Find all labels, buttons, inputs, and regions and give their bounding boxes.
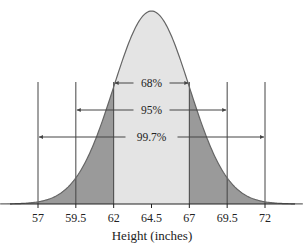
arrowhead-right	[260, 135, 264, 139]
x-axis: 5759.56264.56769.572	[10, 204, 295, 225]
normal-distribution-chart: 68%95%99.7% 5759.56264.56769.572 Height …	[0, 0, 304, 252]
x-axis-label: Height (inches)	[112, 228, 193, 243]
arrowhead-left	[77, 108, 81, 112]
x-tick-label: 57	[32, 211, 44, 225]
arrowhead-left	[39, 135, 43, 139]
x-tick-label: 72	[259, 211, 271, 225]
interval-label: 68%	[141, 77, 163, 89]
x-tick-label: 64.5	[141, 211, 162, 225]
x-tick-label: 67	[183, 211, 195, 225]
interval-label: 95%	[141, 104, 163, 116]
interval-label: 99.7%	[137, 131, 167, 143]
x-tick-label: 59.5	[65, 211, 86, 225]
interval-arrows: 68%95%99.7%	[39, 77, 264, 143]
x-tick-label: 69.5	[217, 211, 238, 225]
arrowhead-right	[222, 108, 226, 112]
x-tick-label: 62	[108, 211, 120, 225]
